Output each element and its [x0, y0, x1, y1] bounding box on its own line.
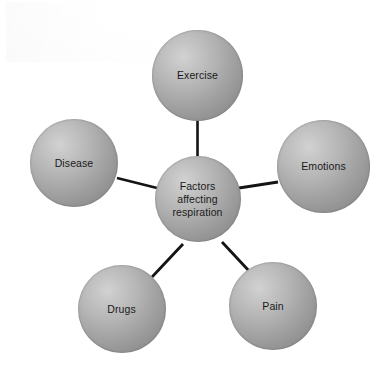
edge-center-emotions: [239, 182, 278, 188]
node-emotions-label: Emotions: [297, 160, 350, 173]
node-disease[interactable]: Disease: [30, 119, 118, 207]
diagram-canvas: Exercise Emotions Pain Drugs Disease Fac…: [0, 0, 382, 376]
edge-center-drugs: [152, 244, 183, 277]
node-drugs[interactable]: Drugs: [78, 265, 166, 353]
node-pain[interactable]: Pain: [229, 262, 317, 350]
node-disease-label: Disease: [51, 157, 98, 170]
node-exercise[interactable]: Exercise: [152, 30, 243, 121]
edge-center-disease: [117, 178, 157, 188]
node-center-label: Factors affecting respiration: [168, 180, 226, 219]
node-emotions[interactable]: Emotions: [277, 120, 370, 213]
node-exercise-label: Exercise: [173, 69, 222, 82]
node-center-factors-affecting-respiration[interactable]: Factors affecting respiration: [155, 156, 241, 242]
node-drugs-label: Drugs: [103, 303, 140, 316]
node-pain-label: Pain: [258, 300, 287, 313]
edge-center-pain: [222, 242, 250, 272]
